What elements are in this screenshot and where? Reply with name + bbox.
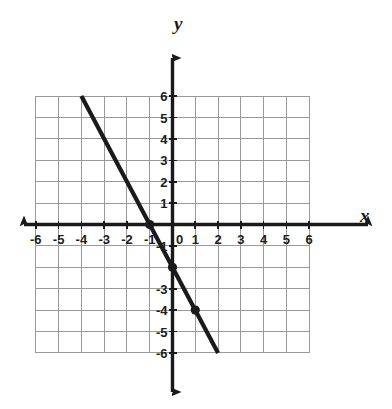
x-tick-label: -1 — [144, 233, 156, 246]
x-tick-label: 2 — [214, 233, 221, 246]
y-tick-label: -5 — [156, 325, 168, 338]
x-tick-label: 0 — [176, 233, 183, 246]
data-point — [191, 306, 200, 315]
data-point — [168, 263, 177, 272]
x-tick-label: 6 — [306, 233, 313, 246]
y-tick-label: -6 — [156, 346, 168, 359]
coordinate-plane-figure: y x -6-5-4-3-2-10123456654321-1-3-4-5-6 — [0, 0, 392, 409]
x-tick-label: -3 — [98, 233, 110, 246]
y-tick-label: 3 — [160, 154, 167, 167]
x-tick-label: 3 — [237, 233, 244, 246]
x-tick-label: -5 — [53, 233, 65, 246]
x-tick-label: 1 — [192, 233, 199, 246]
data-point — [145, 220, 154, 229]
x-tick-label: 5 — [283, 233, 290, 246]
y-tick-label: -3 — [156, 282, 168, 295]
y-tick-label: -4 — [156, 304, 168, 317]
y-tick-label: 2 — [160, 175, 167, 188]
y-axis-label: y — [174, 14, 182, 33]
y-tick-label: -1 — [156, 239, 168, 252]
y-tick-label: 4 — [160, 132, 167, 145]
x-tick-label: -4 — [76, 233, 88, 246]
x-axis-label: x — [360, 206, 370, 225]
x-tick-label: -2 — [121, 233, 133, 246]
y-tick-label: 5 — [160, 111, 167, 124]
y-tick-label: 6 — [160, 90, 167, 103]
coordinate-plane-svg — [0, 0, 392, 409]
y-tick-label: 1 — [160, 197, 167, 210]
x-tick-label: 4 — [260, 233, 267, 246]
x-tick-label: -6 — [30, 233, 42, 246]
